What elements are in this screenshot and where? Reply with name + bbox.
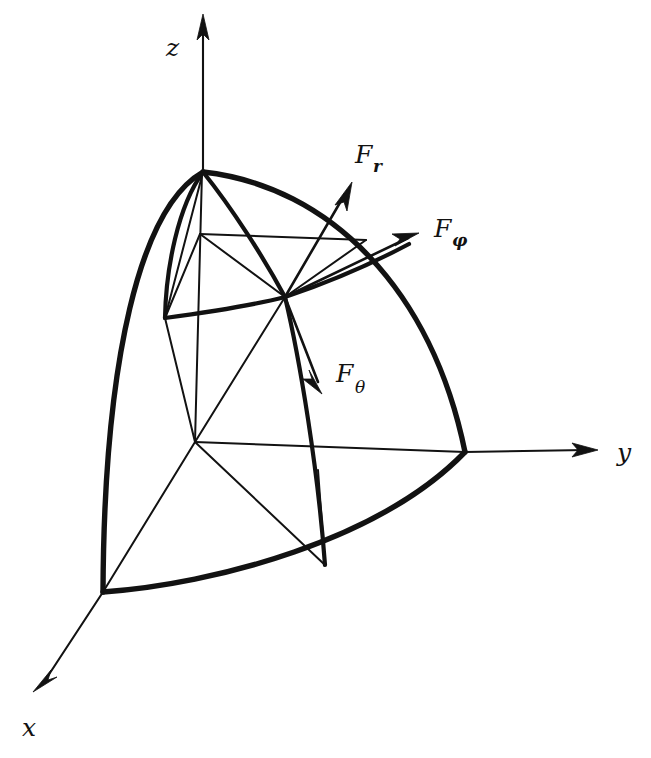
line-origin-to-equator-mid [195, 442, 325, 565]
meridian-arc-below-p [285, 297, 325, 565]
meridian-arc-xz-outer [103, 172, 203, 592]
chord-horizontal-upper [200, 234, 366, 240]
radial-line-origin-to-p [195, 297, 285, 442]
vector-label-Fr-base: F [354, 140, 374, 169]
z-axis-lower-segment [195, 172, 202, 442]
latitude-arc-inner [165, 297, 285, 318]
figure-canvas: z y x F r F φ F θ [0, 0, 651, 758]
line-chordnode-to-point-p [200, 234, 285, 297]
axis-label-z: z [165, 33, 180, 62]
vector-label-Ftheta-subscript: θ [355, 377, 365, 397]
inner-sphere-wedge [165, 172, 409, 565]
vector-label-Ftheta-base: F [335, 359, 355, 388]
y-axis-line [465, 450, 586, 452]
vector-label-Fphi-base: F [433, 214, 453, 243]
line-pole-to-inner-left [165, 172, 203, 318]
x-axis-line [44, 592, 103, 682]
line-inner-left-down [165, 318, 195, 442]
line-origin-to-x-sphere [103, 442, 195, 592]
axis-label-x: x [22, 713, 36, 742]
axis-label-y: y [616, 438, 632, 467]
vector-label-Fr-subscript: r [373, 156, 383, 176]
x-axis-arrowhead [33, 670, 57, 692]
spherical-coordinates-figure: z y x F r F φ F θ [0, 0, 651, 758]
equator-arc-outer [103, 452, 465, 592]
line-origin-to-y-sphere [195, 442, 465, 452]
vector-label-Fphi-subscript: φ [452, 230, 468, 250]
